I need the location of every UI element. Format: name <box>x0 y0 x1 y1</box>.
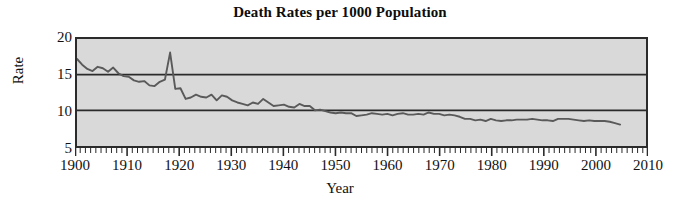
data-line-series-death-rate <box>77 53 620 125</box>
y-tick-20: 20 <box>57 30 72 45</box>
x-tick-1980: 1980 <box>477 157 507 174</box>
x-tick-1970: 1970 <box>425 157 455 174</box>
y-tick-15: 15 <box>57 67 72 82</box>
x-tick-1920: 1920 <box>164 157 194 174</box>
data-line-svg <box>77 39 646 146</box>
x-axis-tick-marks <box>75 148 648 157</box>
x-tick-1940: 1940 <box>268 157 298 174</box>
x-axis-tick-labels: 1900191019201930194019501960197019801990… <box>0 157 680 177</box>
y-axis-tick-labels: 5101520 <box>36 30 72 155</box>
x-axis-title: Year <box>0 180 680 197</box>
x-tick-2000: 2000 <box>581 157 611 174</box>
x-tick-1990: 1990 <box>529 157 559 174</box>
x-tick-1910: 1910 <box>112 157 142 174</box>
y-axis-title: Rate <box>10 41 27 101</box>
y-tick-10: 10 <box>57 104 72 119</box>
x-tick-2010: 2010 <box>633 157 663 174</box>
plot-area <box>75 37 648 148</box>
x-tick-1960: 1960 <box>373 157 403 174</box>
x-tick-1950: 1950 <box>320 157 350 174</box>
y-tick-5: 5 <box>65 141 73 156</box>
x-tick-1930: 1930 <box>216 157 246 174</box>
x-tick-1900: 1900 <box>60 157 90 174</box>
chart-figure: Death Rates per 1000 Population Rate 510… <box>0 0 680 207</box>
chart-title: Death Rates per 1000 Population <box>0 4 680 21</box>
